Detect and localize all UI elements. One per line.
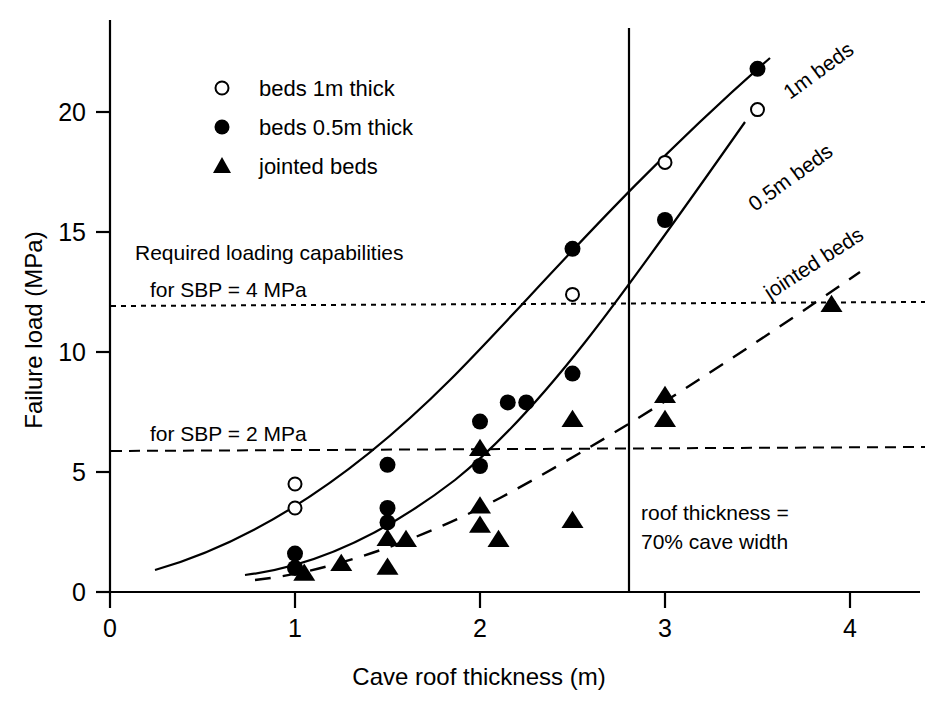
y-tick-label-0: 0 [72,578,86,606]
data-point [654,386,676,403]
legend-label-beds-1m: beds 1m thick [259,76,396,101]
figure-container: 0 5 10 15 20 0 1 2 3 4 Cave roof thickne… [0,0,934,706]
legend-marker-filled-triangle [213,157,231,173]
data-point [469,439,491,456]
y-axis-tick-labels: 0 5 10 15 20 [58,98,86,606]
annotation-roof-thickness-line1: roof thickness = [641,501,789,524]
axis-lines [96,20,920,592]
x-axis-title: Cave roof thickness (m) [352,663,605,690]
reference-line-sbp-2 [111,447,925,451]
data-point [469,515,491,532]
legend-label-jointed-beds: jointed beds [258,154,378,179]
data-point [469,496,491,513]
annotation-roof-thickness-line2: 70% cave width [641,530,788,553]
data-point [380,500,396,516]
legend-marker-filled-circle [215,120,230,135]
annotation-sbp-4: for SBP = 4 MPa [150,278,307,301]
curve-label-jointed-beds: jointed beds [759,222,867,304]
legend: beds 1m thick beds 0.5m thick jointed be… [213,76,414,179]
x-tick-label-1: 1 [288,614,302,642]
data-point [562,410,584,427]
y-axis-ticks [96,112,110,592]
y-tick-label-15: 15 [58,218,86,246]
y-tick-label-5: 5 [72,458,86,486]
data-point [518,394,534,410]
chart-canvas: 0 5 10 15 20 0 1 2 3 4 Cave roof thickne… [0,0,934,706]
data-point [472,458,488,474]
curve-label-0.5m-beds: 0.5m beds [744,139,837,215]
trend-curve-1m-beds [155,58,770,570]
data-point [287,546,303,562]
x-axis-tick-labels: 0 1 2 3 4 [103,614,857,642]
x-tick-label-0: 0 [103,614,117,642]
data-point [500,394,516,410]
y-tick-label-10: 10 [58,338,86,366]
data-point [380,514,396,530]
data-point [565,241,581,257]
y-axis-title: Failure load (MPa) [20,231,47,428]
legend-marker-open-circle [216,82,229,95]
curve-label-1m-beds: 1m beds [779,37,858,103]
data-point [289,478,302,491]
data-point [657,212,673,228]
legend-label-beds-0.5m: beds 0.5m thick [259,115,414,140]
x-tick-label-2: 2 [473,614,487,642]
annotation-sbp-2: for SBP = 2 MPa [150,422,307,445]
x-tick-label-4: 4 [843,614,857,642]
data-point [330,554,352,571]
y-tick-label-20: 20 [58,98,86,126]
data-point [750,61,766,77]
reference-line-sbp-4 [111,302,925,306]
data-point [377,529,399,546]
annotation-required-loading: Required loading capabilities [135,241,404,264]
data-point [654,410,676,427]
data-point [565,366,581,382]
data-point [289,502,302,515]
data-point [751,103,764,116]
data-point [377,557,399,574]
data-point [472,414,488,430]
data-point [566,288,579,301]
data-point [659,156,672,169]
data-point [395,530,417,547]
data-point [380,457,396,473]
data-point [562,511,584,528]
x-axis-ticks [110,592,850,608]
x-tick-label-3: 3 [658,614,672,642]
